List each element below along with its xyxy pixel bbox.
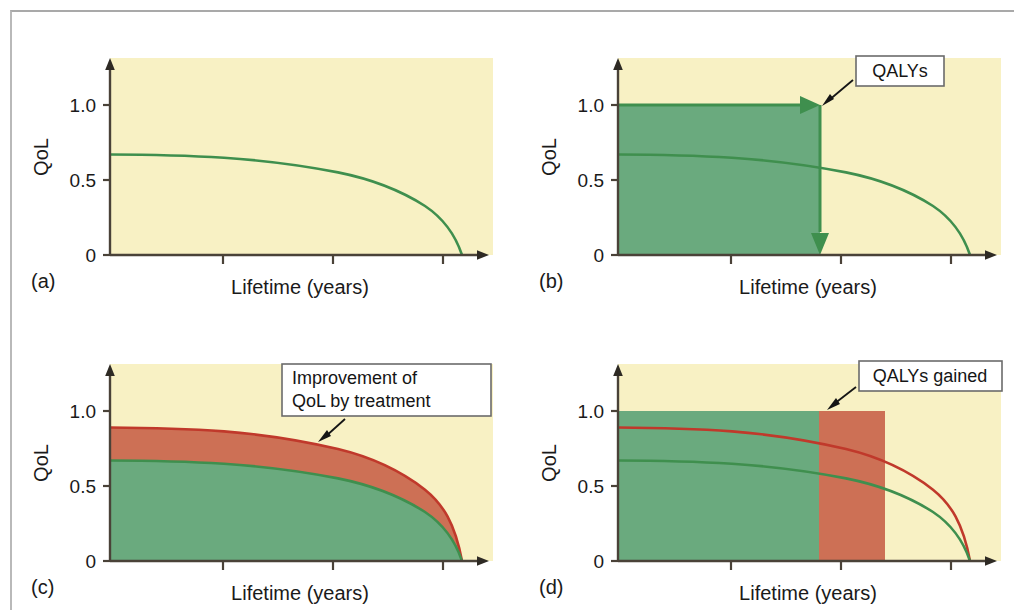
x-axis-label: Lifetime (years) (739, 582, 877, 604)
y-tick-label-0: 0 (85, 551, 96, 572)
y-tick-label-0: 0 (593, 551, 604, 572)
improvement-callout-line-2: QoL by treatment (292, 391, 430, 411)
y-tick-label-0: 0 (593, 245, 604, 266)
improvement-callout-line-1: Improvement of (292, 368, 418, 388)
panel-letter-c: (c) (31, 576, 54, 598)
panel-c: 1.0 0.5 0 QoL Lifetime (years) Improveme… (0, 306, 509, 612)
y-tick-label-0p5: 0.5 (70, 170, 96, 191)
y-tick-label-1: 1.0 (70, 401, 96, 422)
y-tick-label-0p5: 0.5 (578, 476, 604, 497)
y-tick-label-0: 0 (85, 245, 96, 266)
qalys-untreated-rectangle (618, 411, 819, 561)
y-tick-label-0p5: 0.5 (70, 476, 96, 497)
panel-a: 1.0 0.5 0 QoL Lifetime (years) (a) (0, 0, 509, 306)
x-axis-label: Lifetime (years) (231, 582, 369, 604)
y-axis-label: QoL (30, 138, 52, 176)
qalys-rectangle (618, 105, 820, 255)
y-tick-label-1: 1.0 (578, 401, 604, 422)
y-axis-label: QoL (30, 444, 52, 482)
panel-letter-a: (a) (31, 270, 55, 292)
y-tick-label-1: 1.0 (70, 95, 96, 116)
qalys-callout-label: QALYs (872, 61, 928, 81)
y-tick-label-0p5: 0.5 (578, 170, 604, 191)
y-axis-label: QoL (538, 138, 560, 176)
figure-root: 1.0 0.5 0 QoL Lifetime (years) (a) (0, 0, 1017, 613)
x-axis-label: Lifetime (years) (231, 276, 369, 298)
panel-b: 1.0 0.5 0 QoL Lifetime (years) QALYs (b) (508, 0, 1017, 306)
y-axis-label: QoL (538, 444, 560, 482)
panel-letter-b: (b) (539, 270, 563, 292)
panel-letter-d: (d) (539, 576, 563, 598)
x-axis-label: Lifetime (years) (739, 276, 877, 298)
y-tick-label-1: 1.0 (578, 95, 604, 116)
panel-d: 1.0 0.5 0 QoL Lifetime (years) QALYs gai… (508, 306, 1017, 612)
qalys-gained-callout-label: QALYs gained (873, 366, 988, 386)
